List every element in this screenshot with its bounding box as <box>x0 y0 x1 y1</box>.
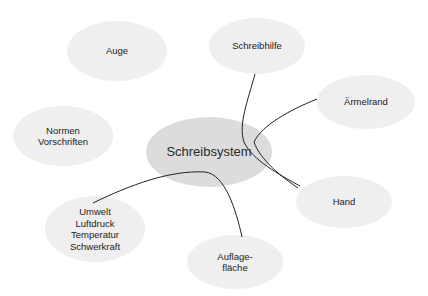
node-label: Auflage- fläche <box>217 251 252 274</box>
node-normen: Normen Vorschriften <box>13 106 113 166</box>
node-umwelt: Umwelt Luftdruck Temperatur Schwerkraft <box>45 196 145 262</box>
node-label: Normen Vorschriften <box>38 125 88 148</box>
node-label: Hand <box>333 196 356 208</box>
node-aermelrand: Ärmelrand <box>317 75 415 129</box>
mind-map-diagram: Auge Schreibhilfe Ärmelrand Normen Vorsc… <box>0 0 428 296</box>
node-auflageflaeche: Auflage- fläche <box>187 235 283 289</box>
center-label: Schreibsystem <box>166 146 251 158</box>
node-label: Auge <box>106 45 128 57</box>
node-hand: Hand <box>296 176 392 228</box>
node-label: Schreibhilfe <box>232 40 282 52</box>
node-label: Umwelt Luftdruck Temperatur Schwerkraft <box>70 206 120 252</box>
node-schreibhilfe: Schreibhilfe <box>209 18 305 74</box>
node-auge: Auge <box>67 21 167 81</box>
node-schreibsystem: Schreibsystem <box>146 117 272 187</box>
node-label: Ärmelrand <box>344 96 388 108</box>
